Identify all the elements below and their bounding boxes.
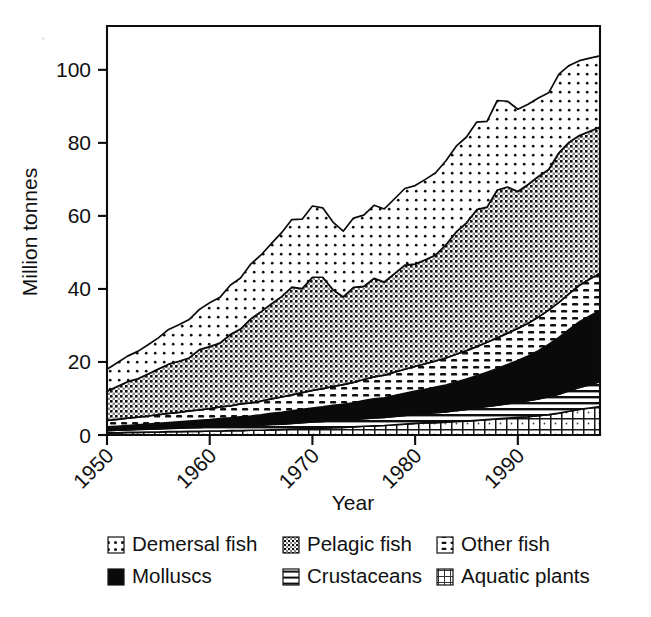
legend-label: Molluscs bbox=[132, 564, 212, 587]
legend-label: Crustaceans bbox=[307, 564, 422, 587]
legend-item-pelagic-fish[interactable]: Pelagic fish bbox=[283, 532, 412, 555]
chart-legend: Demersal fishPelagic fishOther fishMollu… bbox=[108, 532, 590, 587]
x-tick-label: 1960 bbox=[171, 444, 220, 493]
legend-label: Demersal fish bbox=[132, 532, 257, 555]
legend-item-demersal-fish[interactable]: Demersal fish bbox=[108, 532, 257, 555]
x-tick-label: 1950 bbox=[69, 444, 118, 493]
legend-swatch-molluscs bbox=[108, 569, 124, 585]
x-tick-label: 1980 bbox=[377, 444, 426, 493]
chart-figure: . 020406080100 19501960197019801990 Mill… bbox=[0, 0, 651, 617]
x-tick-label: 1970 bbox=[274, 444, 323, 493]
legend-item-other-fish[interactable]: Other fish bbox=[437, 532, 550, 555]
stacked-area-chart: . 020406080100 19501960197019801990 Mill… bbox=[0, 0, 651, 617]
legend-item-aquatic-plants[interactable]: Aquatic plants bbox=[437, 564, 590, 587]
y-axis-ticks: 020406080100 bbox=[56, 58, 107, 446]
legend-item-molluscs[interactable]: Molluscs bbox=[108, 564, 212, 587]
y-tick-label: 60 bbox=[68, 204, 91, 227]
x-axis-ticks: 19501960197019801990 bbox=[69, 435, 529, 493]
y-tick-label: 20 bbox=[68, 350, 91, 373]
y-tick-label: 0 bbox=[79, 424, 91, 447]
legend-swatch-aquatic-plants bbox=[437, 569, 453, 585]
y-tick-label: 40 bbox=[68, 277, 91, 300]
legend-label: Pelagic fish bbox=[307, 532, 412, 555]
x-axis-title: Year bbox=[332, 491, 374, 514]
legend-item-crustaceans[interactable]: Crustaceans bbox=[283, 564, 422, 587]
y-tick-label: 100 bbox=[56, 58, 91, 81]
y-tick-label: 80 bbox=[68, 131, 91, 154]
chart-plot-areas bbox=[107, 56, 600, 435]
legend-label: Aquatic plants bbox=[461, 564, 590, 587]
legend-swatch-crustaceans bbox=[283, 569, 299, 585]
svg-text:.: . bbox=[40, 18, 46, 45]
legend-swatch-other-fish bbox=[437, 537, 453, 553]
scan-ghost-text: . bbox=[40, 18, 46, 45]
legend-swatch-demersal-fish bbox=[108, 537, 124, 553]
legend-label: Other fish bbox=[461, 532, 550, 555]
x-tick-label: 1990 bbox=[479, 444, 528, 493]
y-axis-title: Million tonnes bbox=[18, 168, 41, 296]
legend-swatch-pelagic-fish bbox=[283, 537, 299, 553]
